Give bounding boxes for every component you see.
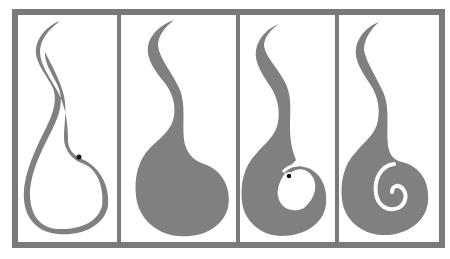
dot-marker xyxy=(77,155,82,160)
divider-3 xyxy=(335,12,339,245)
divider-1 xyxy=(117,12,121,245)
diagram-figure xyxy=(0,0,450,259)
divider-2 xyxy=(236,12,240,245)
dot-marker xyxy=(286,173,292,179)
